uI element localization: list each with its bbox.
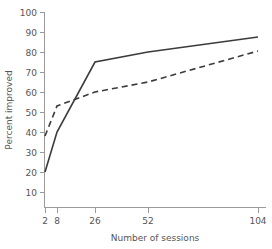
y-axis-ticks: 100908070605040302010 bbox=[20, 8, 45, 198]
x-axis-ticks: 282652104 bbox=[42, 208, 267, 227]
y-axis-title: Percent improved bbox=[4, 70, 14, 149]
chart-container: 100908070605040302010 282652104 Number o… bbox=[0, 0, 272, 249]
y-tick-label: 90 bbox=[26, 28, 38, 38]
y-tick-label: 30 bbox=[26, 148, 38, 158]
x-axis-title: Number of sessions bbox=[111, 233, 200, 243]
series-line-dashed bbox=[45, 51, 258, 136]
x-tick-label: 26 bbox=[89, 216, 101, 226]
x-tick-label: 52 bbox=[142, 216, 153, 226]
y-tick-label: 80 bbox=[26, 48, 38, 58]
y-tick-label: 60 bbox=[26, 88, 38, 98]
y-tick-label: 40 bbox=[26, 128, 38, 138]
y-tick-label: 100 bbox=[20, 8, 37, 18]
y-tick-label: 10 bbox=[26, 188, 38, 198]
y-tick-label: 20 bbox=[26, 168, 38, 178]
x-tick-label: 2 bbox=[42, 216, 48, 226]
y-tick-label: 50 bbox=[26, 108, 38, 118]
x-tick-label: 104 bbox=[249, 216, 266, 226]
series-line-solid bbox=[45, 37, 258, 172]
line-chart: 100908070605040302010 282652104 Number o… bbox=[0, 0, 272, 249]
y-tick-label: 70 bbox=[26, 68, 38, 78]
x-tick-label: 8 bbox=[54, 216, 60, 226]
